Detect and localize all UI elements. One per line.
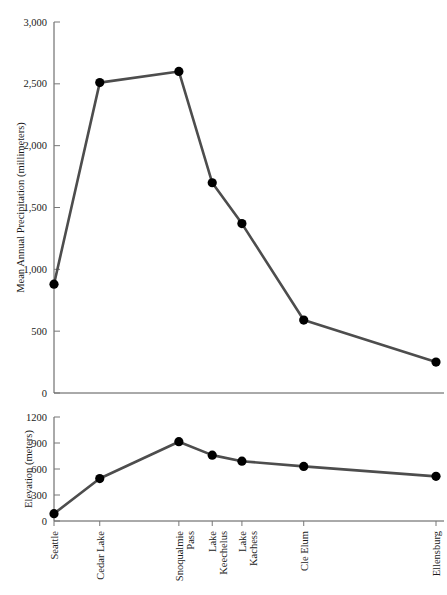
elevation-panel: 03006009001200Elevation (meters) bbox=[23, 412, 444, 527]
precipitation-data-point bbox=[49, 280, 58, 289]
elevation-series-line bbox=[54, 442, 436, 514]
category-label: Cle Elum bbox=[299, 531, 310, 571]
elevation-y-tick-label: 0 bbox=[42, 516, 47, 527]
category-label-group: Ellensburg bbox=[431, 530, 442, 576]
precipitation-series-line bbox=[54, 71, 436, 362]
category-label: Kachess bbox=[248, 531, 259, 566]
elevation-data-point bbox=[237, 457, 246, 466]
category-label: Snoqualmie bbox=[174, 531, 185, 582]
elevation-data-point bbox=[299, 462, 308, 471]
precipitation-y-tick-label: 2,500 bbox=[23, 78, 47, 89]
elevation-y-axis-title: Elevation (meters) bbox=[23, 430, 35, 508]
precipitation-data-point bbox=[299, 315, 308, 324]
precipitation-y-tick-label: 0 bbox=[42, 388, 47, 399]
category-label-group: LakeKachess bbox=[237, 531, 259, 566]
category-axis-labels: SeattleCedar LakeSnoqualmiePassLakeKeech… bbox=[49, 521, 442, 581]
precipitation-data-point bbox=[208, 178, 217, 187]
precipitation-y-tick-label: 2,000 bbox=[23, 140, 47, 151]
precipitation-y-tick-label: 3,000 bbox=[23, 17, 47, 28]
category-label-group: Seattle bbox=[49, 531, 60, 560]
category-label-group: SnoqualmiePass bbox=[174, 531, 196, 582]
elevation-y-tick-label: 1200 bbox=[26, 412, 47, 423]
precipitation-data-point bbox=[95, 78, 104, 87]
precipitation-y-axis-title: Mean Annual Precipitation (millimeters) bbox=[15, 122, 27, 293]
category-label: Pass bbox=[185, 531, 196, 550]
category-label: Seattle bbox=[49, 531, 60, 560]
chart-canvas: 05001,0001,5002,0002,5003,000Mean Annual… bbox=[0, 0, 447, 595]
precipitation-data-point bbox=[237, 219, 246, 228]
category-label-group: Cedar Lake bbox=[95, 531, 106, 580]
category-label: Lake bbox=[207, 531, 218, 552]
precipitation-panel: 05001,0001,5002,0002,5003,000Mean Annual… bbox=[15, 17, 444, 399]
precipitation-y-tick-label: 1,500 bbox=[23, 202, 47, 213]
category-label: Cedar Lake bbox=[95, 531, 106, 580]
precipitation-y-tick-label: 500 bbox=[31, 326, 47, 337]
precipitation-data-point bbox=[174, 67, 183, 76]
elevation-data-point bbox=[208, 451, 217, 460]
category-label: Ellensburg bbox=[431, 530, 442, 576]
category-label-group: Cle Elum bbox=[299, 531, 310, 571]
elevation-data-point bbox=[49, 509, 58, 518]
elevation-data-point bbox=[95, 474, 104, 483]
category-label: Lake bbox=[237, 531, 248, 552]
precipitation-y-tick-label: 1,000 bbox=[23, 264, 47, 275]
elevation-data-point bbox=[431, 472, 440, 481]
precipitation-data-point bbox=[431, 357, 440, 366]
category-label: Keechelus bbox=[218, 531, 229, 575]
elevation-data-point bbox=[174, 437, 183, 446]
category-label-group: LakeKeechelus bbox=[207, 531, 229, 575]
figure-two-panel-transect-chart: 05001,0001,5002,0002,5003,000Mean Annual… bbox=[0, 0, 447, 595]
